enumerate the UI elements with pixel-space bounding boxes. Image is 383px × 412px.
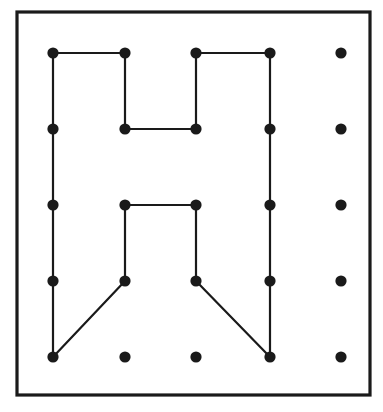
peg-dot-r2c0[interactable]: [47, 199, 58, 210]
peg-dot-r0c2[interactable]: [190, 47, 201, 58]
peg-dot-r0c1[interactable]: [119, 47, 130, 58]
peg-dot-r0c4[interactable]: [335, 47, 346, 58]
peg-dot-r4c3[interactable]: [264, 351, 275, 362]
peg-dot-r4c2[interactable]: [190, 351, 201, 362]
geoboard-canvas: [0, 0, 383, 412]
peg-dot-r3c2[interactable]: [190, 275, 201, 286]
peg-dot-r1c1[interactable]: [119, 123, 130, 134]
peg-dot-r4c1[interactable]: [119, 351, 130, 362]
peg-dot-r4c0[interactable]: [47, 351, 58, 362]
peg-dot-r1c4[interactable]: [335, 123, 346, 134]
peg-dot-r3c3[interactable]: [264, 275, 275, 286]
peg-dot-r3c0[interactable]: [47, 275, 58, 286]
peg-dot-r2c4[interactable]: [335, 199, 346, 210]
peg-dot-r3c4[interactable]: [335, 275, 346, 286]
peg-dot-r2c3[interactable]: [264, 199, 275, 210]
peg-dot-r2c2[interactable]: [190, 199, 201, 210]
peg-dot-r0c3[interactable]: [264, 47, 275, 58]
peg-dot-r1c2[interactable]: [190, 123, 201, 134]
peg-dot-r1c0[interactable]: [47, 123, 58, 134]
peg-dot-r2c1[interactable]: [119, 199, 130, 210]
peg-dot-r4c4[interactable]: [335, 351, 346, 362]
peg-dot-r1c3[interactable]: [264, 123, 275, 134]
peg-dot-r0c0[interactable]: [47, 47, 58, 58]
geoboard-figure: [0, 0, 383, 412]
peg-dot-r3c1[interactable]: [119, 275, 130, 286]
